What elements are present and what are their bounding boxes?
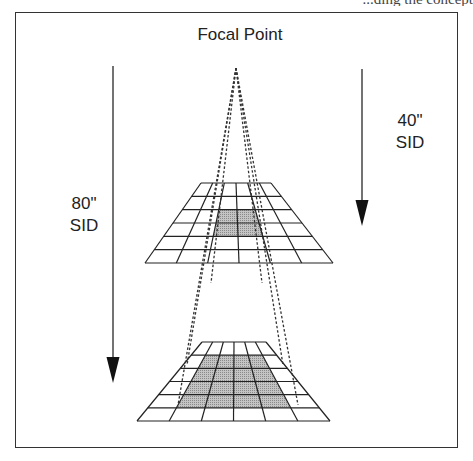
sid-80-unit: SID	[54, 215, 114, 237]
sid-80-label: 80" SID	[54, 193, 114, 237]
arrowhead-icon	[107, 357, 120, 383]
grids-layer	[137, 183, 333, 421]
lower-grid-80-sid	[137, 342, 330, 421]
inner-left-ray	[211, 68, 236, 283]
upper-grid-40-sid	[145, 183, 333, 263]
sid-80-value: 80"	[54, 193, 114, 215]
arrowhead-icon	[356, 200, 369, 226]
inner-right-ray	[236, 68, 262, 283]
sid-40-label: 40" SID	[380, 110, 440, 154]
arrow-40-sid	[356, 69, 369, 226]
sid-40-unit: SID	[380, 132, 440, 154]
sid-40-value: 40"	[380, 110, 440, 132]
focal-point-label: Focal Point	[180, 24, 300, 46]
